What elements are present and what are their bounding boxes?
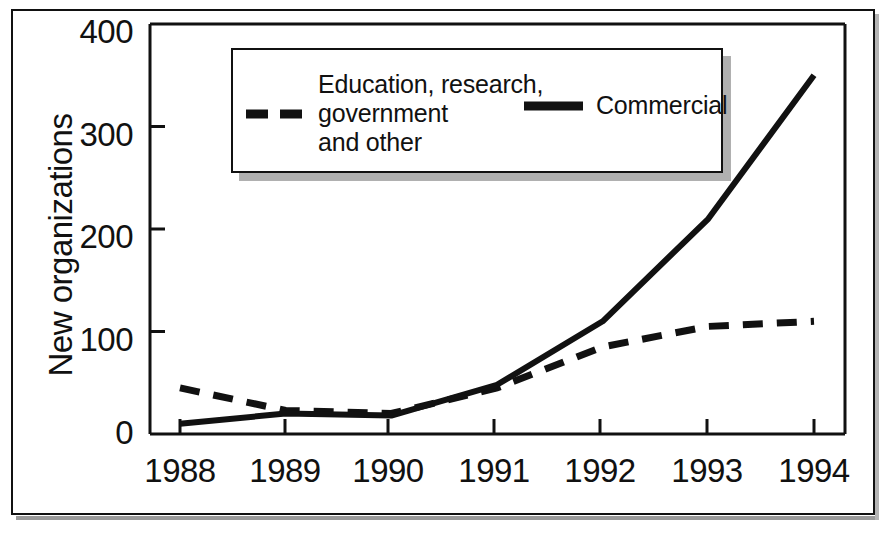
figure-frame: New organizations 400 300 200 100 0 1988… [11, 9, 875, 515]
legend-box: Education, research, government and othe… [231, 48, 723, 173]
legend-label-education: Education, research, government and othe… [318, 70, 543, 157]
legend-label-commercial: Commercial [596, 91, 727, 120]
series-line-education-research-government [180, 321, 814, 413]
legend-entry-education: Education, research, government and othe… [243, 70, 543, 157]
y-axis-ticks [150, 127, 165, 332]
solid-line-swatch-icon [521, 93, 587, 119]
dashed-line-swatch-icon [243, 101, 309, 127]
figure-container: New organizations 400 300 200 100 0 1988… [0, 0, 891, 539]
legend-entry-commercial: Commercial [521, 91, 727, 120]
x-axis-ticks [180, 419, 814, 434]
